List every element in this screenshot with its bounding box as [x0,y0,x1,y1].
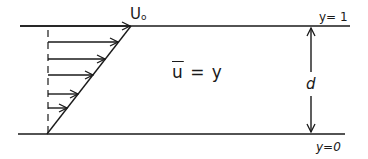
profile-equation: u = y [172,64,223,81]
velocity-arrows [20,26,130,108]
mean-velocity-symbol: u [172,62,184,82]
velocity-subscript: o [141,12,147,22]
velocity-symbol: U [130,5,141,23]
bottom-boundary-label: y=0 [316,141,341,153]
top-boundary-label: y= 1 [319,11,348,23]
gap-label: d [306,76,316,93]
wall-velocity-label: Uo [130,7,147,22]
equation-rhs: = y [184,62,223,82]
